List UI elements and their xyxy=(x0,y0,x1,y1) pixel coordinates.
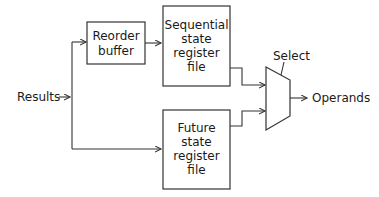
future-rf-line4: file xyxy=(187,163,205,177)
future-to-mux-wire xyxy=(230,111,265,126)
sequential-to-mux-wire xyxy=(230,68,265,85)
future-rf-line2: state xyxy=(181,135,211,149)
select-line xyxy=(281,62,284,75)
sequential-rf-line4: file xyxy=(187,60,205,74)
sequential-rf-line1: Sequential xyxy=(165,18,229,32)
sequential-register-file-block: Sequential state register file xyxy=(163,6,230,86)
reorder-buffer-line1: Reorder xyxy=(92,29,139,43)
reorder-buffer-line2: buffer xyxy=(98,44,134,58)
register-file-diagram: Results Reorder buffer Sequential state … xyxy=(0,0,379,197)
future-rf-line1: Future xyxy=(177,121,215,135)
sequential-rf-line3: register xyxy=(173,46,219,60)
select-label: Select xyxy=(273,49,310,63)
future-rf-line3: register xyxy=(173,149,219,163)
sequential-rf-line2: state xyxy=(181,32,211,46)
reorder-buffer-block: Reorder buffer xyxy=(87,22,145,64)
results-label: Results xyxy=(17,90,60,104)
multiplexer xyxy=(266,67,290,130)
future-register-file-block: Future state register file xyxy=(163,110,230,189)
operands-label: Operands xyxy=(312,91,370,105)
